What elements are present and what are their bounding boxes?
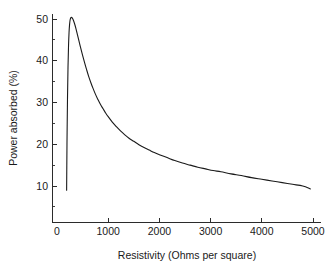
x-tick-label: 0 (54, 225, 60, 237)
x-axis-ticks (108, 218, 313, 223)
data-series-power-absorbed (67, 17, 311, 190)
x-tick-label: 3000 (199, 225, 223, 237)
y-axis-title: Power absorbed (%) (7, 70, 19, 166)
x-axis-tick-labels: 010002000300040005000 (54, 225, 325, 237)
power-absorbed-vs-resistivity-chart: 1020304050 010002000300040005000 Resisti… (0, 0, 333, 268)
x-tick-label: 5000 (301, 225, 325, 237)
y-tick-label: 50 (36, 13, 48, 25)
x-axis-title: Resistivity (Ohms per square) (118, 249, 256, 261)
chart-figure: 1020304050 010002000300040005000 Resisti… (0, 0, 333, 268)
y-tick-label: 10 (36, 180, 48, 192)
y-tick-label: 40 (36, 54, 48, 66)
y-tick-label: 20 (36, 138, 48, 150)
y-axis-ticks (53, 19, 58, 207)
x-tick-label: 4000 (250, 225, 274, 237)
axis-spines (53, 14, 322, 223)
y-tick-label: 30 (36, 96, 48, 108)
x-tick-label: 1000 (97, 225, 121, 237)
y-axis-tick-labels: 1020304050 (36, 13, 48, 192)
x-tick-label: 2000 (148, 225, 172, 237)
